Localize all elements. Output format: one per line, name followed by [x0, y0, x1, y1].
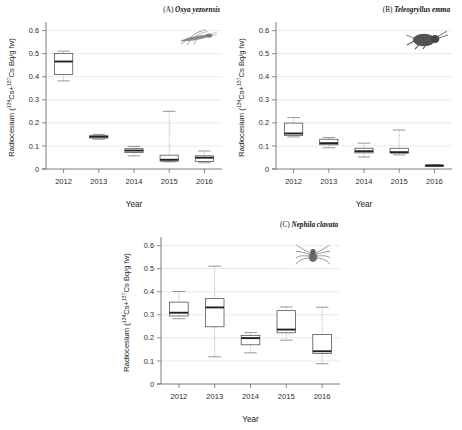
- panel-a-oxya-yezoensis: (A) Oxya yezoensis00.10.20.30.40.50.6201…: [0, 0, 232, 215]
- cricket-icon: [406, 31, 448, 49]
- svg-text:Radiocesium (134Cs+137Cs Bq/g: Radiocesium (134Cs+137Cs Bq/g fw): [6, 38, 16, 157]
- boxplot-2016: [313, 307, 332, 364]
- y-tick-label: 0.1: [259, 142, 269, 151]
- y-axis-title: Radiocesium (134Cs+137Cs Bq/g fw): [121, 253, 131, 372]
- panel-title: (C) Nephila clavata: [280, 221, 338, 229]
- y-tick-label: 0.4: [144, 287, 154, 296]
- x-tick-label: 2012: [285, 177, 302, 186]
- y-tick-label: 0.2: [259, 118, 269, 127]
- y-tick-label: 0.3: [259, 95, 269, 104]
- svg-text:Radiocesium (134Cs+137Cs Bq/g: Radiocesium (134Cs+137Cs Bq/g fw): [121, 253, 131, 372]
- grasshopper-icon: [180, 30, 217, 45]
- panel-title: (B) Teleogryllus emma: [383, 6, 451, 14]
- x-tick-label: 2014: [356, 177, 373, 186]
- boxplot-2012: [54, 51, 72, 81]
- boxplot-2014: [125, 146, 143, 155]
- x-tick-label: 2015: [161, 177, 178, 186]
- boxplot-2015: [390, 130, 408, 155]
- y-tick-label: 0.3: [29, 95, 39, 104]
- y-axis-title: Radiocesium (134Cs+137Cs Bq/g fw): [236, 38, 246, 157]
- boxplot-2015: [160, 111, 178, 162]
- x-tick-label: 2013: [320, 177, 337, 186]
- box-iqr: [170, 302, 189, 316]
- spider-icon: [296, 245, 330, 264]
- box-iqr: [54, 53, 72, 74]
- x-tick-label: 2013: [206, 392, 223, 401]
- x-axis-title: Year: [126, 200, 143, 209]
- box-iqr: [241, 335, 260, 344]
- boxplot-2016: [195, 151, 213, 163]
- boxplot-2015: [277, 307, 296, 340]
- y-tick-label: 0.5: [144, 264, 154, 273]
- y-tick-label: 0.6: [29, 26, 39, 35]
- svg-text:Radiocesium (134Cs+137Cs Bq/g: Radiocesium (134Cs+137Cs Bq/g fw): [236, 38, 246, 157]
- y-tick-label: 0.4: [29, 72, 39, 81]
- panel-title: (A) Oxya yezoensis: [163, 6, 220, 14]
- panel-b-teleogryllus-emma: (B) Teleogryllus emma00.10.20.30.40.50.6…: [230, 0, 462, 215]
- boxplot-2012: [170, 292, 189, 319]
- y-tick-label: 0: [265, 165, 269, 174]
- y-axis-title: Radiocesium (134Cs+137Cs Bq/g fw): [6, 38, 16, 157]
- y-tick-label: 0.6: [259, 26, 269, 35]
- x-tick-label: 2012: [55, 177, 72, 186]
- boxplot-figure: (A) Oxya yezoensis00.10.20.30.40.50.6201…: [0, 0, 462, 430]
- boxplot-2014: [355, 143, 373, 157]
- y-tick-label: 0.5: [29, 49, 39, 58]
- y-tick-label: 0.6: [144, 241, 154, 250]
- boxplot-2016: [425, 165, 443, 167]
- y-tick-label: 0.1: [29, 142, 39, 151]
- y-tick-label: 0: [35, 165, 39, 174]
- y-tick-label: 0.4: [259, 72, 269, 81]
- x-axis-title: Year: [242, 415, 259, 424]
- box-iqr: [205, 299, 224, 327]
- x-tick-label: 2016: [196, 177, 213, 186]
- y-tick-label: 0: [150, 380, 154, 389]
- y-tick-label: 0.5: [259, 49, 269, 58]
- x-tick-label: 2016: [426, 177, 443, 186]
- x-tick-label: 2012: [170, 392, 187, 401]
- y-tick-label: 0.3: [144, 310, 154, 319]
- x-axis-title: Year: [356, 200, 373, 209]
- boxplot-2012: [284, 118, 302, 137]
- panel-c-nephila-clavata: (C) Nephila clavata00.10.20.30.40.50.620…: [115, 215, 350, 430]
- x-tick-label: 2014: [126, 177, 143, 186]
- y-tick-label: 0.2: [29, 118, 39, 127]
- x-tick-label: 2015: [278, 392, 295, 401]
- x-tick-label: 2014: [242, 392, 259, 401]
- x-tick-label: 2015: [391, 177, 408, 186]
- x-tick-label: 2016: [314, 392, 331, 401]
- boxplot-2014: [241, 333, 260, 353]
- boxplot-2013: [90, 134, 108, 139]
- y-tick-label: 0.2: [144, 333, 154, 342]
- boxplot-2013: [320, 138, 338, 148]
- boxplot-2013: [205, 266, 224, 357]
- y-tick-label: 0.1: [144, 357, 154, 366]
- x-tick-label: 2013: [90, 177, 107, 186]
